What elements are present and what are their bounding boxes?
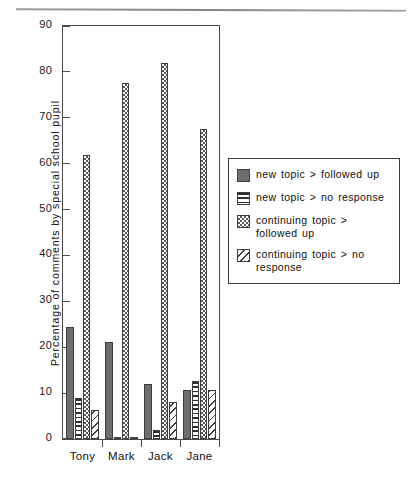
legend-label: new topic > followed up xyxy=(256,168,380,181)
bar xyxy=(66,327,73,439)
bar xyxy=(83,155,90,440)
bar-group xyxy=(144,26,177,439)
bar-group xyxy=(66,26,99,439)
bar-group xyxy=(183,26,216,439)
bar xyxy=(192,381,199,439)
legend-swatch xyxy=(237,169,250,182)
bar xyxy=(75,398,82,439)
x-axis-label: Jane xyxy=(186,450,212,462)
bar xyxy=(200,129,207,439)
bar-group-bars xyxy=(105,26,138,439)
bar xyxy=(144,384,151,439)
y-tick-label: 80 xyxy=(39,64,52,76)
bar xyxy=(130,437,137,439)
y-axis-title: Percentage of comments by special school… xyxy=(49,99,61,365)
x-axis-label: Jack xyxy=(148,450,173,462)
bar xyxy=(114,437,121,439)
x-axis-tick xyxy=(102,439,103,447)
y-tick-label: 30 xyxy=(39,293,52,305)
legend-swatch xyxy=(237,249,250,262)
bar xyxy=(153,430,160,439)
legend-label: continuing topic > no response xyxy=(256,248,391,273)
bar xyxy=(169,402,176,439)
bar xyxy=(122,83,129,439)
x-axis-tick xyxy=(141,439,142,447)
legend-item: continuing topic > no response xyxy=(237,248,391,273)
x-axis-label: Mark xyxy=(108,450,135,462)
bar xyxy=(208,390,215,439)
y-tick-label: 40 xyxy=(39,247,52,259)
bar xyxy=(105,342,112,439)
bar-group-bars xyxy=(144,26,177,439)
figure-container: Percentage of comments by special school… xyxy=(0,0,416,492)
legend-item: new topic > no response xyxy=(237,191,391,205)
y-tick-label: 90 xyxy=(39,18,52,30)
y-tick-label: 20 xyxy=(39,339,52,351)
y-tick-label: 0 xyxy=(46,431,52,443)
bar xyxy=(91,410,98,439)
x-axis-tick xyxy=(219,439,220,447)
legend-label: new topic > no response xyxy=(256,191,384,204)
y-tick-label: 70 xyxy=(39,110,52,122)
legend-label: continuing topic > followed up xyxy=(256,214,391,239)
legend-item: new topic > followed up xyxy=(237,168,391,182)
scan-artifact-rule xyxy=(16,8,406,12)
bar xyxy=(161,63,168,439)
y-tick-label: 60 xyxy=(39,156,52,168)
legend-swatch xyxy=(237,192,250,205)
bar xyxy=(183,390,190,439)
x-axis-tick xyxy=(180,439,181,447)
legend-item: continuing topic > followed up xyxy=(237,214,391,239)
y-tick-label: 50 xyxy=(39,202,52,214)
bar-groups: TonyMarkJackJane xyxy=(63,26,219,439)
bar-group-bars xyxy=(66,26,99,439)
y-tick-label: 10 xyxy=(39,385,52,397)
bar-group xyxy=(105,26,138,439)
legend-swatch xyxy=(237,215,250,228)
bar-group-bars xyxy=(183,26,216,439)
x-axis-label: Tony xyxy=(70,450,96,462)
plot-area: Percentage of comments by special school… xyxy=(62,25,220,440)
legend: new topic > followed upnew topic > no re… xyxy=(228,158,400,284)
